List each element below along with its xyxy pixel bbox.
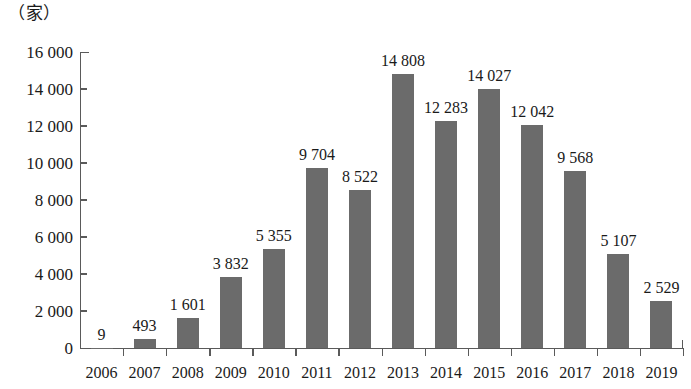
y-axis-tick-label: 10 000 (0, 155, 73, 172)
x-axis-tick-label: 2013 (387, 363, 419, 383)
x-axis-tick (295, 349, 296, 356)
x-axis-tick (640, 349, 641, 356)
bar-value-label: 14 027 (467, 68, 511, 84)
bar (521, 125, 543, 348)
x-axis-tick-label: 2006 (86, 363, 118, 383)
x-axis-tick (209, 349, 210, 356)
x-axis-tick-label: 2018 (602, 363, 634, 383)
x-axis-tick (382, 349, 383, 356)
x-axis-tick-label: 2008 (172, 363, 204, 383)
x-axis-tick-label: 2019 (645, 363, 677, 383)
x-axis-tick (554, 349, 555, 356)
x-axis-tick-label: 2007 (129, 363, 161, 383)
bar-chart: （家） 02 0004 0006 0008 00010 00012 00014 … (0, 0, 691, 389)
x-axis-tick (683, 349, 684, 356)
x-axis-tick (123, 349, 124, 356)
x-axis-tick-label: 2017 (559, 363, 591, 383)
y-axis-tick-label: 0 (0, 340, 73, 357)
x-axis-tick-labels: 2006200720082009201020112012201320142015… (0, 363, 691, 387)
bar-value-label: 9 704 (299, 147, 335, 163)
y-axis-tick-label: 14 000 (0, 81, 73, 98)
x-axis-tick (597, 349, 598, 356)
bar (435, 121, 457, 348)
y-axis-tick-labels: 02 0004 0006 0008 00010 00012 00014 0001… (0, 0, 73, 389)
x-axis-tick-label: 2011 (301, 363, 332, 383)
y-axis-tick-label: 4 000 (0, 266, 73, 283)
bar (392, 74, 414, 348)
bar-value-label: 5 107 (600, 233, 636, 249)
y-axis-tick-label: 12 000 (0, 118, 73, 135)
x-axis-tick-label: 2014 (430, 363, 462, 383)
x-axis-tick (166, 349, 167, 356)
y-axis-tick-label: 8 000 (0, 192, 73, 209)
bar-value-label: 9 (98, 327, 106, 343)
bar-value-label: 3 832 (213, 256, 249, 272)
bar-value-label: 1 601 (170, 297, 206, 313)
bar (607, 254, 629, 348)
bar (263, 249, 285, 348)
bar (349, 190, 371, 348)
bar-value-label: 14 808 (381, 53, 425, 69)
bar-value-label: 5 355 (256, 228, 292, 244)
x-axis-tick-label: 2012 (344, 363, 376, 383)
bar (220, 277, 242, 348)
x-axis-tick-label: 2010 (258, 363, 290, 383)
x-axis-tick (338, 349, 339, 356)
x-axis-tick-label: 2016 (516, 363, 548, 383)
x-axis-tick (425, 349, 426, 356)
bar (650, 301, 672, 348)
x-axis-tick (252, 349, 253, 356)
x-axis-tick (468, 349, 469, 356)
bar-value-label: 2 529 (643, 280, 679, 296)
bar (177, 318, 199, 348)
x-axis-tick (511, 349, 512, 356)
x-axis-tick-label: 2015 (473, 363, 505, 383)
x-axis-tick-label: 2009 (215, 363, 247, 383)
bar-value-label: 493 (133, 318, 157, 334)
bar (134, 339, 156, 348)
bar (564, 171, 586, 348)
bar-value-label: 8 522 (342, 169, 378, 185)
y-axis-tick-label: 6 000 (0, 229, 73, 246)
y-axis-tick-label: 16 000 (0, 44, 73, 61)
bar-value-label: 9 568 (557, 150, 593, 166)
bar (478, 89, 500, 348)
bar (306, 168, 328, 348)
bar-value-label: 12 042 (510, 104, 554, 120)
y-axis-tick-label: 2 000 (0, 303, 73, 320)
bar-value-label: 12 283 (424, 100, 468, 116)
